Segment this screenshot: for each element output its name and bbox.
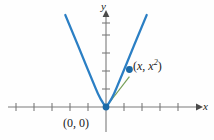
plot-canvas [0, 0, 214, 140]
y-axis-label: y [101, 1, 106, 12]
parabola-figure: y x (0, 0) (x, x2) [0, 0, 214, 140]
origin-coordinate-label: (0, 0) [63, 117, 89, 129]
curve-point-coordinate-label: (x, x2) [133, 60, 162, 72]
x-axis-arrowhead [196, 104, 203, 111]
x-axis-label: x [203, 101, 208, 112]
point-label-paren-close: ) [158, 59, 162, 73]
origin-point-dot [103, 104, 110, 111]
curve-point-dot [126, 66, 133, 73]
